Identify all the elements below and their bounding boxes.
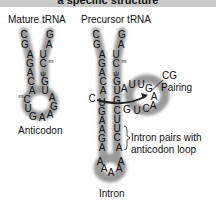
svg-text:U: U <box>137 79 144 90</box>
svg-text:A: A <box>39 112 46 123</box>
svg-text:A: A <box>101 163 108 174</box>
svg-text:A: A <box>150 100 157 111</box>
cg-pairing-label-2: Pairing <box>161 82 192 93</box>
intron-label: Intron <box>99 188 125 199</box>
svg-text:G: G <box>29 111 37 122</box>
intron-pairs-label-1: Intron pairs with <box>131 132 202 143</box>
svg-text:U: U <box>128 79 135 90</box>
svg-text:A: A <box>99 142 106 153</box>
trna-diagram: C G A G A C A G A U Cm ψ G U mC U G A A … <box>0 0 216 206</box>
svg-text:A: A <box>46 39 53 50</box>
svg-text:C: C <box>88 93 95 104</box>
svg-text:A: A <box>118 156 125 167</box>
svg-text:C: C <box>142 103 149 114</box>
svg-text:G: G <box>123 104 131 115</box>
svg-text:m: m <box>49 58 54 64</box>
svg-text:m: m <box>122 58 127 64</box>
cg-pairing-label-1: CG <box>162 70 177 81</box>
intron-pairs-label-2: anticodon loop <box>131 144 196 155</box>
svg-text:U: U <box>41 85 48 96</box>
svg-text:A: A <box>49 92 56 103</box>
svg-text:A: A <box>121 83 128 94</box>
mature-trna-sequence: C G A G A C A G A U Cm ψ G U mC U G A A … <box>19 29 59 123</box>
svg-text:U: U <box>133 105 140 116</box>
svg-text:A: A <box>108 167 115 178</box>
svg-text:A: A <box>116 142 123 153</box>
svg-text:C: C <box>112 58 119 69</box>
anticodon-label: Anticodon <box>18 125 62 136</box>
intron-bracket <box>124 126 130 150</box>
svg-text:C: C <box>39 58 46 69</box>
svg-text:A: A <box>100 85 107 96</box>
